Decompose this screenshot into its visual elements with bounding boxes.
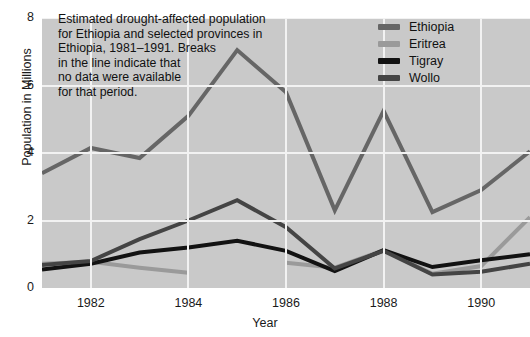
gridline-vertical — [480, 18, 482, 288]
legend: EthiopiaEritreaTigrayWollo — [378, 18, 454, 86]
x-tick-label: 1990 — [451, 296, 511, 310]
legend-item-tigray[interactable]: Tigray — [378, 52, 454, 69]
chart-annotation: Estimated drought-affected population fo… — [58, 12, 283, 100]
x-tick-label: 1982 — [61, 296, 121, 310]
legend-swatch-icon — [378, 41, 400, 47]
y-axis-title: Population in Millions — [20, 22, 34, 192]
legend-swatch-icon — [378, 58, 400, 64]
x-tick-label: 1988 — [354, 296, 414, 310]
legend-swatch-icon — [378, 75, 400, 81]
legend-label: Tigray — [409, 54, 443, 68]
legend-swatch-icon — [378, 24, 400, 30]
legend-item-wollo[interactable]: Wollo — [378, 69, 454, 86]
x-tick-label: 1986 — [256, 296, 316, 310]
drought-population-line-chart: 8 6 4 2 0 Population in Millions 1982198… — [0, 0, 530, 337]
legend-label: Wollo — [409, 71, 440, 85]
legend-item-eritrea[interactable]: Eritrea — [378, 35, 454, 52]
legend-item-ethiopia[interactable]: Ethiopia — [378, 18, 454, 35]
y-tick-label: 2 — [8, 213, 34, 227]
y-tick-label: 0 — [8, 280, 34, 294]
legend-label: Ethiopia — [409, 20, 454, 34]
x-axis-title: Year — [0, 316, 530, 330]
legend-label: Eritrea — [409, 37, 446, 51]
gridline-vertical — [285, 18, 287, 288]
x-tick-label: 1984 — [158, 296, 218, 310]
